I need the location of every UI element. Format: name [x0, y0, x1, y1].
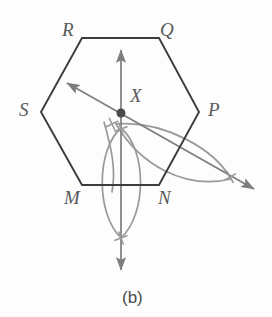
geometry-figure: RQPNMS X (b) [0, 0, 272, 317]
vertex-label-p: P [208, 100, 220, 119]
vertex-label-q: Q [160, 20, 174, 39]
point-x-dot [117, 109, 126, 118]
vertex-label-m: M [64, 188, 80, 207]
vertex-label-n: N [158, 188, 171, 207]
vertex-label-s: S [19, 100, 29, 119]
point-label-x: X [130, 86, 142, 105]
figure-caption: (b) [122, 289, 143, 306]
geometry-canvas [0, 0, 272, 317]
vertex-label-r: R [62, 20, 74, 39]
wide-arc-upper-right [116, 124, 231, 179]
diagonal-bisector-ray [67, 83, 254, 189]
bisector-ray-group [67, 50, 254, 270]
vesica-arc-left [102, 128, 121, 238]
